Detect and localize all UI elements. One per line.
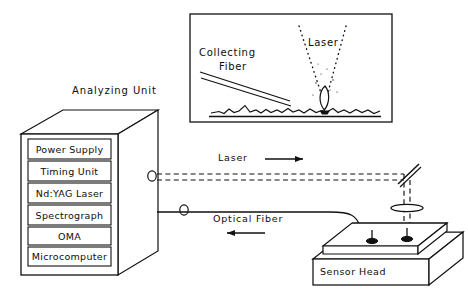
sensor-head-label: Sensor Head: [320, 267, 386, 277]
inset-laser-label: Laser: [308, 38, 339, 48]
collecting-fiber-label-line1: Collecting: [199, 48, 256, 58]
module-label-spectrograph: Spectrograph: [28, 211, 111, 221]
collecting-fiber-label-line2: Fiber: [219, 62, 247, 72]
module-label-timing-unit: Timing Unit: [28, 167, 111, 177]
module-label-oma: OMA: [28, 232, 111, 242]
cabinet-side-face: [118, 110, 158, 275]
focusing-lens-icon: [391, 204, 423, 211]
optical-fiber-direction-arrow-icon: [227, 230, 265, 236]
laser-path-label: Laser: [218, 153, 248, 163]
cabinet-module-slots: [28, 139, 111, 266]
module-label-microcomputer: Microcomputer: [28, 252, 111, 262]
module-label-nd-yag-laser: Nd:YAG Laser: [28, 189, 111, 199]
diagram-canvas: Analyzing Unit Power Supply Timing Unit …: [0, 0, 468, 295]
sensor-plate-front-edge: [323, 246, 418, 254]
module-label-power-supply: Power Supply: [28, 145, 111, 155]
laser-direction-arrow-icon: [265, 156, 303, 162]
optical-fiber-path-label: Optical Fiber: [213, 214, 283, 224]
laser-output-port-icon: [148, 171, 156, 181]
page-title: Analyzing Unit: [72, 86, 157, 96]
fiber-input-port-icon: [180, 205, 188, 215]
